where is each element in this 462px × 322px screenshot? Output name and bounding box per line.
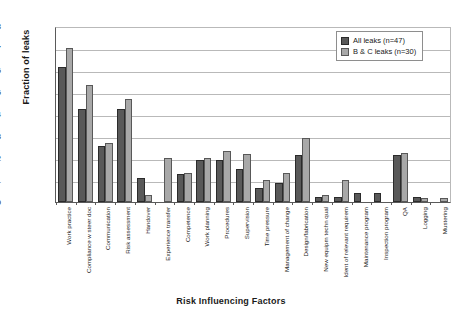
- y-axis-tick-label: 0.7: [0, 45, 1, 53]
- bar: [440, 198, 447, 202]
- bar: [295, 155, 302, 202]
- y-axis-tick-label: 0: [0, 199, 1, 207]
- bar-group: [430, 28, 450, 202]
- x-axis-tick: [430, 202, 431, 205]
- x-axis-category-label: Maintenance program: [362, 207, 369, 267]
- bar: [58, 67, 65, 202]
- x-axis-category-label: Experience transfer: [164, 207, 171, 261]
- bar: [374, 193, 381, 202]
- x-axis-label-cell: Logging: [411, 206, 431, 290]
- bar: [334, 197, 341, 202]
- x-axis-category-label: Supervision: [243, 207, 250, 239]
- x-axis-category-label: Compliance w steer doc: [85, 207, 92, 273]
- bar-group: [214, 28, 234, 202]
- bar: [275, 183, 282, 202]
- bar: [105, 143, 112, 202]
- x-axis-label-cell: Handover: [134, 206, 154, 290]
- x-axis-category-label: Competence: [184, 207, 191, 242]
- bar: [196, 160, 203, 202]
- x-axis-tick: [273, 202, 274, 205]
- x-axis-label-cell: Management of change: [273, 206, 293, 290]
- bar-group: [233, 28, 253, 202]
- bar-group: [56, 28, 76, 202]
- x-axis-label-cell: Experience transfer: [154, 206, 174, 290]
- x-axis-category-labels: Work practiceCompliance w steer docCommu…: [55, 206, 451, 290]
- bar: [342, 180, 349, 202]
- x-axis-tick: [214, 202, 215, 205]
- bar-group: [194, 28, 214, 202]
- bar: [164, 158, 171, 202]
- x-axis-category-label: Risk assessment: [124, 207, 131, 254]
- bar: [393, 155, 400, 202]
- x-axis-tick: [292, 202, 293, 205]
- x-axis-category-label: Inspection program: [382, 207, 389, 260]
- bar-group: [115, 28, 135, 202]
- bar: [283, 173, 290, 202]
- bar: [98, 146, 105, 202]
- bar: [243, 154, 250, 202]
- x-axis-label-cell: Design/fabrication: [293, 206, 313, 290]
- x-axis-category-label: Work planning: [203, 207, 210, 246]
- bar: [145, 195, 152, 202]
- x-axis-category-label: Work practice: [65, 207, 72, 245]
- x-axis-label-cell: Work practice: [55, 206, 75, 290]
- x-axis-tick: [371, 202, 372, 205]
- x-axis-category-label: QA: [401, 207, 408, 216]
- bar-group: [155, 28, 175, 202]
- bar-group: [253, 28, 273, 202]
- x-axis-tick: [352, 202, 353, 205]
- x-axis-tick: [135, 202, 136, 205]
- y-axis-tick-label: 0.6: [0, 67, 1, 75]
- x-axis-label-cell: Ident of relevant requirem: [332, 206, 352, 290]
- x-axis-tick: [174, 202, 175, 205]
- bar: [421, 198, 428, 202]
- bar-group: [273, 28, 293, 202]
- bar: [255, 188, 262, 202]
- x-axis-label-cell: Work planning: [194, 206, 214, 290]
- legend-item-bc-leaks: B & C leaks (n=30): [341, 46, 416, 57]
- x-axis-category-label: Design/fabrication: [302, 207, 309, 257]
- bar-group: [174, 28, 194, 202]
- legend-swatch-icon: [341, 48, 349, 56]
- bar-group: [135, 28, 155, 202]
- chart-legend: All leaks (n=47) B & C leaks (n=30): [336, 31, 423, 61]
- bar: [216, 160, 223, 202]
- x-axis-label-cell: New equipm techn qual: [312, 206, 332, 290]
- bar: [236, 169, 243, 202]
- legend-item-all-leaks: All leaks (n=47): [341, 35, 416, 46]
- x-axis-category-label: Procedures: [223, 207, 230, 239]
- x-axis-tick: [115, 202, 116, 205]
- bar-chart: Fraction of leaks 0.80.70.60.50.40.30.20…: [0, 0, 462, 322]
- x-axis-category-label: Ident of relevant requirem: [342, 207, 349, 278]
- bar: [78, 109, 85, 203]
- legend-item-label: B & C leaks (n=30): [353, 47, 416, 56]
- bar: [177, 174, 184, 202]
- bar: [184, 173, 191, 202]
- bar: [302, 138, 309, 202]
- x-axis-category-label: Handover: [144, 207, 151, 234]
- y-axis-title: Fraction of leaks: [21, 0, 31, 137]
- x-axis-label-cell: Time pressure: [253, 206, 273, 290]
- x-axis-label-cell: Communication: [95, 206, 115, 290]
- bar: [315, 197, 322, 202]
- x-axis-tick: [411, 202, 412, 205]
- x-axis-tick: [253, 202, 254, 205]
- x-axis-category-label: Logging: [421, 207, 428, 229]
- x-axis-tick: [233, 202, 234, 205]
- x-axis-label-cell: Supervision: [233, 206, 253, 290]
- x-axis-label-cell: Compliance w steer doc: [75, 206, 95, 290]
- bar: [117, 109, 124, 203]
- bar-group: [292, 28, 312, 202]
- bar: [401, 153, 408, 202]
- legend-swatch-icon: [341, 37, 349, 45]
- legend-item-label: All leaks (n=47): [353, 36, 405, 45]
- x-axis-category-label: Management of change: [283, 207, 290, 272]
- bar: [125, 99, 132, 202]
- x-axis-title: Risk Influencing Factors: [0, 296, 462, 306]
- bar: [86, 85, 93, 202]
- bar: [137, 178, 144, 202]
- x-axis-tick: [312, 202, 313, 205]
- x-axis-tick: [391, 202, 392, 205]
- x-axis-category-label: New equipm techn qual: [322, 207, 329, 272]
- x-axis-label-cell: Inspection program: [372, 206, 392, 290]
